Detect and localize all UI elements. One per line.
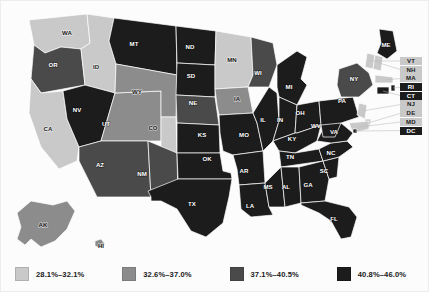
legend-swatch: [230, 267, 244, 281]
state-label-pa: PA: [338, 97, 347, 104]
state-label-mt: MT: [130, 40, 139, 47]
state-label-ut: UT: [102, 120, 110, 127]
legend-label: 37.1%–40.5%: [251, 270, 299, 279]
state-label-mo: MO: [239, 131, 249, 138]
state-ne[interactable]: [176, 95, 219, 125]
state-label-ar: AR: [240, 167, 249, 174]
state-label-ia: IA: [234, 95, 241, 102]
callout-chip-ma[interactable]: MA: [400, 74, 422, 82]
state-label-ok: OK: [202, 155, 212, 162]
leader-line-nh: [379, 63, 401, 70]
state-label-tx: TX: [188, 200, 197, 207]
legend-label: 32.6%–37.0%: [143, 270, 191, 279]
state-label-il: IL: [260, 116, 266, 123]
callout-chip-dc[interactable]: DC: [400, 127, 422, 135]
state-nc[interactable]: [319, 141, 353, 161]
state-mi[interactable]: [277, 51, 307, 105]
state-label-tn: TN: [286, 153, 294, 160]
state-sd[interactable]: [176, 63, 215, 97]
choropleth-map-figure: WAORIDMTWYNVUTCAAZNMCONDSDNEKSOKTXMNIAMO…: [0, 0, 429, 292]
state-label-ky: KY: [288, 135, 296, 142]
state-label-ga: GA: [303, 181, 313, 188]
state-ks[interactable]: [177, 123, 220, 153]
state-label-id: ID: [93, 63, 100, 70]
legend-item: 40.8%–46.0%: [323, 267, 429, 281]
state-label-fl: FL: [330, 215, 338, 222]
us-states-svg: WAORIDMTWYNVUTCAAZNMCONDSDNEKSOKTXMNIAMO…: [1, 1, 429, 259]
legend-item: 28.1%–32.1%: [1, 267, 108, 281]
callout-chip-md[interactable]: MD: [400, 118, 422, 126]
state-label-ks: KS: [198, 131, 206, 138]
state-label-ne: NE: [189, 99, 197, 106]
state-label-in: IN: [277, 116, 283, 123]
callout-chip-vt[interactable]: VT: [400, 57, 422, 65]
state-label-la: LA: [246, 202, 255, 209]
callout-chip-ri[interactable]: RI: [400, 83, 422, 91]
legend-item: 37.1%–40.5%: [216, 267, 323, 281]
state-az[interactable]: [79, 141, 151, 197]
state-nd[interactable]: [176, 26, 216, 65]
callout-chip-nj[interactable]: NJ: [400, 100, 422, 108]
state-label-ca: CA: [44, 125, 53, 132]
state-label-ms: MS: [263, 183, 272, 190]
state-label-nc: NC: [327, 149, 336, 156]
state-label-mn: MN: [227, 56, 236, 63]
state-label-nd: ND: [186, 43, 195, 50]
callout-chip-ct[interactable]: CT: [400, 92, 422, 100]
state-ar[interactable]: [233, 151, 265, 185]
state-shapes-group: [17, 14, 397, 248]
legend-swatch: [15, 267, 29, 281]
legend: 28.1%–32.1% 32.6%–37.0% 37.1%–40.5% 40.8…: [1, 257, 429, 291]
state-fl[interactable]: [301, 201, 357, 239]
state-or[interactable]: [31, 45, 85, 93]
state-label-wa: WA: [62, 29, 72, 36]
state-ct[interactable]: [377, 87, 389, 94]
leader-line-de: [368, 113, 401, 123]
state-label-wy: WY: [132, 88, 142, 95]
state-label-ak: AK: [39, 221, 48, 228]
small-state-callout-column: VTNHMARICTNJDEMDDC: [400, 57, 422, 135]
state-label-co: CO: [148, 124, 157, 131]
state-label-va: VA: [330, 128, 339, 135]
state-wi[interactable]: [248, 37, 277, 87]
legend-swatch: [337, 267, 351, 281]
state-label-or: OR: [48, 61, 58, 68]
callout-chip-de[interactable]: DE: [400, 109, 422, 117]
state-label-wi: WI: [254, 69, 262, 76]
legend-label: 40.8%–46.0%: [358, 270, 406, 279]
state-label-nm: NM: [137, 170, 146, 177]
state-tx[interactable]: [148, 179, 232, 237]
state-label-ny: NY: [350, 75, 358, 82]
state-label-nv: NV: [73, 106, 82, 113]
callout-chip-nh[interactable]: NH: [400, 66, 422, 74]
state-label-sc: SC: [320, 167, 329, 174]
state-label-me: ME: [381, 41, 390, 48]
us-map-canvas: WAORIDMTWYNVUTCAAZNMCONDSDNEKSOKTXMNIAMO…: [1, 1, 429, 259]
state-label-az: AZ: [96, 161, 104, 168]
state-wa[interactable]: [29, 14, 90, 53]
legend-swatch: [122, 267, 136, 281]
state-label-hi: HI: [98, 242, 104, 249]
state-label-mi: MI: [286, 83, 293, 90]
state-label-al: AL: [282, 183, 290, 190]
legend-item: 32.6%–37.0%: [108, 267, 215, 281]
legend-label: 28.1%–32.1%: [36, 270, 84, 279]
state-label-sd: SD: [187, 72, 196, 79]
state-label-wv: WV: [311, 122, 322, 129]
state-label-oh: OH: [295, 109, 304, 116]
state-ma[interactable]: [375, 75, 393, 83]
leader-line-nj: [362, 105, 401, 112]
state-nh[interactable]: [373, 55, 383, 71]
